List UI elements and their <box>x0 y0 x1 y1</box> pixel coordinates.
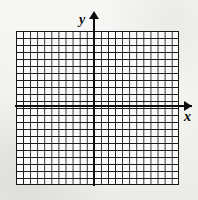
grid-cells <box>16 31 179 185</box>
grid-plot-area <box>16 31 179 185</box>
y-axis-arrow-icon <box>89 11 99 19</box>
y-axis-line <box>93 16 95 186</box>
x-axis-label: x <box>184 110 191 124</box>
y-axis-label: y <box>79 13 85 27</box>
coordinate-grid-figure: y x <box>0 0 198 200</box>
x-axis-line <box>15 105 192 107</box>
